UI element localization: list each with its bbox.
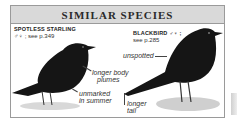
annotation-line: longer (127, 100, 146, 107)
leader-line (155, 56, 167, 57)
annotation-longer-tail: longer tail (127, 100, 146, 114)
page-edge-tab (231, 93, 237, 115)
species-name-spotless-starling: SPOTLESS STARLING (14, 26, 76, 32)
annotation-unspotted: unspotted (123, 52, 154, 59)
annotation-line: unmarked (79, 90, 112, 97)
annotation-unmarked-in-summer: unmarked in summer (79, 90, 112, 104)
leader-line (124, 93, 125, 105)
panel-title: SIMILAR SPECIES (62, 9, 174, 21)
annotation-line: in summer (79, 97, 112, 104)
panel-header: SIMILAR SPECIES (11, 6, 224, 24)
annotation-line: tail (127, 107, 146, 114)
